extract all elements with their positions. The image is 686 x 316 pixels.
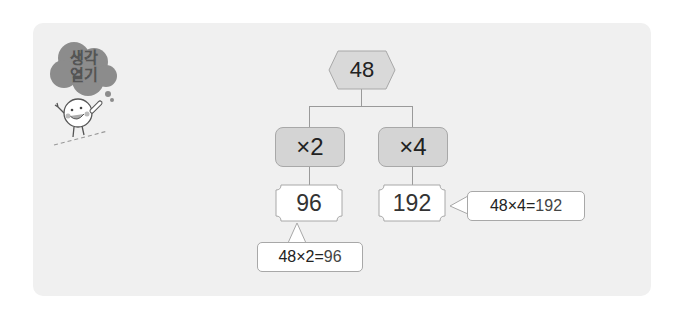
connector-right-down <box>412 106 413 128</box>
connector-op2-result <box>412 165 413 185</box>
equation-left: 48×2= <box>278 248 323 266</box>
badge-line-2: 열기 <box>60 66 108 83</box>
badge-line-1: 생각 <box>60 49 108 66</box>
connector-op1-result <box>309 165 310 185</box>
callout-pointer-right <box>449 195 469 217</box>
root-number: 48 <box>328 50 396 90</box>
result-value: 192 <box>378 184 446 222</box>
connector-horizontal <box>309 106 413 107</box>
operation-label: ×2 <box>296 133 323 161</box>
callout-pointer-up <box>287 222 307 244</box>
result-node-192: 192 <box>378 184 446 222</box>
equation-result: 96 <box>324 248 342 266</box>
mascot-character-icon <box>50 95 120 147</box>
operation-node-times-4: ×4 <box>378 127 448 167</box>
result-value: 96 <box>275 184 343 222</box>
connector-left-down <box>309 106 310 128</box>
equation-callout-times-4: 48×4=192 <box>467 191 585 221</box>
equation-result: 192 <box>535 197 562 215</box>
root-number-node: 48 <box>328 50 396 90</box>
connector-root-down <box>361 89 362 107</box>
operation-label: ×4 <box>399 133 426 161</box>
operation-node-times-2: ×2 <box>275 127 345 167</box>
result-node-96: 96 <box>275 184 343 222</box>
equation-callout-times-2: 48×2=96 <box>257 242 363 272</box>
equation-left: 48×4= <box>490 197 535 215</box>
